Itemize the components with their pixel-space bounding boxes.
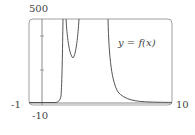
plot-area [0,0,195,135]
plot-frame [29,19,172,105]
curve-left-branch [29,19,63,103]
curve-right-branch [108,19,172,102]
curve-middle-branch [66,19,79,58]
